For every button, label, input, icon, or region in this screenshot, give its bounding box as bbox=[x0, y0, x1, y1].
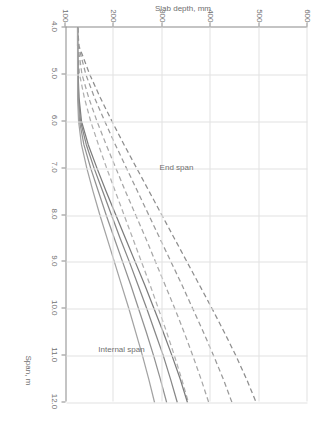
y-tick-label: 500 bbox=[254, 2, 263, 22]
gridline-horizontal bbox=[258, 27, 259, 401]
rotated-chart-wrapper: 4.05.06.07.08.09.010.011.012.0 100200300… bbox=[0, 0, 317, 426]
annotation-label: End span bbox=[159, 162, 193, 171]
gridline-vertical bbox=[66, 121, 307, 122]
gridline-horizontal bbox=[306, 27, 307, 401]
y-tick-mark bbox=[258, 22, 259, 26]
gridline-horizontal bbox=[209, 27, 210, 401]
gridline-vertical bbox=[66, 74, 307, 75]
gridline-vertical bbox=[66, 355, 307, 356]
gridline-vertical bbox=[66, 308, 307, 309]
y-tick-mark bbox=[306, 22, 307, 26]
x-tick-label: 5.0 bbox=[49, 67, 58, 78]
x-axis-title: Span, m bbox=[23, 355, 32, 385]
x-tick-label: 10.0 bbox=[49, 299, 58, 315]
gridline-vertical bbox=[66, 261, 307, 262]
x-tick-label: 11.0 bbox=[49, 347, 58, 362]
x-tick-label: 6.0 bbox=[49, 114, 58, 125]
x-tick-label: 7.0 bbox=[49, 161, 58, 172]
x-tick-mark bbox=[61, 260, 65, 261]
y-tick-mark bbox=[161, 22, 162, 26]
x-tick-label: 4.0 bbox=[49, 20, 58, 31]
x-tick-label: 8.0 bbox=[49, 208, 58, 219]
gridline-vertical bbox=[66, 402, 307, 403]
chart-stage: 4.05.06.07.08.09.010.011.012.0 100200300… bbox=[0, 0, 317, 426]
x-tick-label: 12.0 bbox=[49, 393, 58, 409]
x-tick-mark bbox=[61, 73, 65, 74]
y-tick-mark bbox=[209, 22, 210, 26]
gridline-horizontal bbox=[161, 27, 162, 401]
x-tick-mark bbox=[61, 307, 65, 308]
x-tick-mark bbox=[61, 167, 65, 168]
x-tick-label: 9.0 bbox=[49, 255, 58, 266]
y-tick-label: 100 bbox=[61, 2, 70, 22]
y-tick-mark bbox=[112, 22, 113, 26]
annotation-label: Internal span bbox=[98, 345, 144, 354]
y-tick-label: 600 bbox=[303, 2, 312, 22]
x-tick-mark bbox=[61, 401, 65, 402]
y-tick-mark bbox=[64, 22, 65, 26]
y-tick-label: 200 bbox=[109, 2, 118, 22]
y-axis-title: Slab depth, mm bbox=[154, 4, 210, 13]
x-tick-mark bbox=[61, 354, 65, 355]
gridline-vertical bbox=[66, 215, 307, 216]
x-tick-mark bbox=[61, 214, 65, 215]
x-tick-mark bbox=[61, 120, 65, 121]
